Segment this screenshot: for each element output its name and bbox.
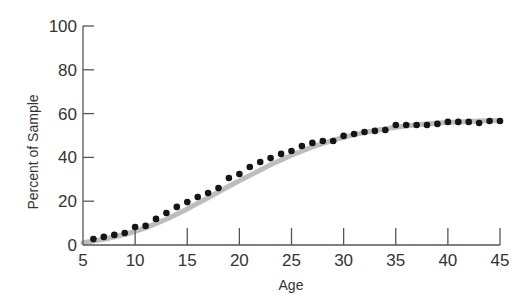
- y-tick-label: 0: [68, 236, 77, 255]
- data-point: [142, 223, 149, 230]
- data-point: [111, 232, 118, 239]
- tick-labels: 02040608010051015202530354045: [49, 17, 510, 270]
- x-tick-label: 40: [438, 251, 457, 270]
- x-tick-label: 20: [230, 251, 249, 270]
- data-point: [351, 131, 358, 138]
- y-axis-title: Percent of Sample: [25, 94, 41, 209]
- data-point: [393, 122, 400, 129]
- data-point: [486, 118, 493, 125]
- data-point: [320, 138, 327, 145]
- data-point: [267, 155, 274, 162]
- data-point: [372, 128, 379, 135]
- data-point: [309, 140, 316, 147]
- data-point: [184, 199, 191, 206]
- data-point: [382, 127, 389, 134]
- data-point: [361, 129, 368, 136]
- data-point: [163, 210, 170, 217]
- data-point: [257, 159, 264, 166]
- data-point: [247, 164, 254, 171]
- x-tick-label: 5: [78, 251, 87, 270]
- y-tick-label: 100: [49, 17, 77, 36]
- data-point: [445, 119, 452, 126]
- data-point: [278, 151, 285, 158]
- axes: [83, 26, 500, 245]
- data-point: [132, 224, 139, 231]
- data-point: [90, 236, 97, 243]
- data-point: [476, 120, 483, 127]
- data-point: [215, 185, 222, 192]
- x-axis-title: Age: [279, 277, 304, 293]
- x-tick-label: 10: [126, 251, 145, 270]
- x-tick-label: 25: [282, 251, 301, 270]
- x-tick-label: 45: [491, 251, 510, 270]
- y-tick-label: 60: [58, 105, 77, 124]
- data-point: [455, 119, 462, 126]
- data-point: [497, 118, 504, 125]
- data-point: [434, 121, 441, 128]
- data-point: [194, 194, 201, 201]
- data-point: [403, 122, 410, 129]
- data-point: [424, 122, 431, 129]
- data-point: [121, 230, 128, 237]
- data-point: [288, 148, 295, 155]
- data-point: [205, 190, 212, 197]
- data-point: [153, 216, 160, 223]
- data-point: [465, 119, 472, 126]
- data-point: [174, 204, 181, 211]
- y-tick-label: 20: [58, 192, 77, 211]
- x-tick-label: 35: [386, 251, 405, 270]
- data-point: [101, 234, 108, 241]
- y-tick-label: 80: [58, 61, 77, 80]
- scatter-chart: 02040608010051015202530354045 Age Percen…: [0, 0, 525, 307]
- data-point: [340, 133, 347, 140]
- data-point: [299, 143, 306, 150]
- data-point: [413, 122, 420, 129]
- y-tick-label: 40: [58, 148, 77, 167]
- data-point: [236, 171, 243, 178]
- x-tick-label: 15: [178, 251, 197, 270]
- data-point: [330, 138, 337, 145]
- data-point: [226, 175, 233, 182]
- x-tick-label: 30: [334, 251, 353, 270]
